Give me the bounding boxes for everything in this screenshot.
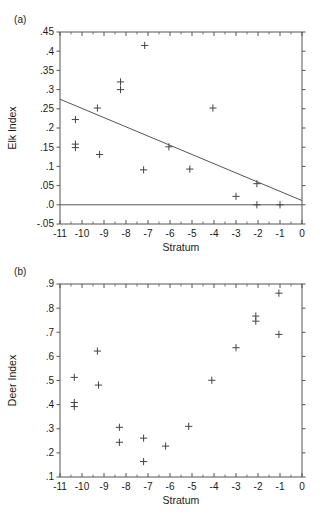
x-tick-label: -7 bbox=[144, 481, 153, 492]
y-tick-label: .3 bbox=[46, 423, 55, 434]
x-tick-label: -1 bbox=[276, 481, 285, 492]
y-axis-title: Elk Index bbox=[6, 106, 18, 150]
data-point-marker bbox=[232, 193, 239, 200]
y-axis-title: Deer Index bbox=[6, 354, 18, 406]
x-tick-label: -6 bbox=[166, 481, 175, 492]
x-tick-label: -9 bbox=[100, 481, 109, 492]
y-tick-label: .3 bbox=[46, 84, 55, 95]
data-point-marker bbox=[94, 347, 101, 354]
data-point-marker bbox=[186, 165, 193, 172]
panel-b-plot: .1.2.3.4.5.6.7.8.9-11-10-9-8-7-6-5-4-3-2… bbox=[0, 262, 325, 523]
data-point-marker bbox=[71, 374, 78, 381]
x-tick-label: -3 bbox=[232, 228, 241, 239]
x-tick-label: -11 bbox=[53, 481, 67, 492]
data-point-marker bbox=[71, 403, 78, 410]
data-point-marker bbox=[117, 78, 124, 85]
data-point-marker bbox=[117, 86, 124, 93]
x-tick-label: 0 bbox=[299, 481, 305, 492]
data-point-marker bbox=[116, 424, 123, 431]
y-tick-label: .6 bbox=[46, 351, 55, 362]
x-tick-label: -5 bbox=[188, 481, 197, 492]
data-point-marker bbox=[253, 201, 260, 208]
data-point-marker bbox=[94, 104, 101, 111]
y-tick-label: .15 bbox=[40, 142, 54, 153]
x-tick-label: -8 bbox=[122, 228, 131, 239]
x-tick-label: -10 bbox=[75, 481, 90, 492]
y-tick-label: .2 bbox=[46, 447, 55, 458]
y-tick-label: .9 bbox=[46, 278, 55, 289]
x-axis-title: Stratum bbox=[163, 241, 200, 253]
x-tick-label: -10 bbox=[75, 228, 90, 239]
x-tick-label: 0 bbox=[299, 228, 305, 239]
y-tick-label: .4 bbox=[46, 46, 55, 57]
y-tick-label: .5 bbox=[46, 375, 55, 386]
panel-b: (b) .1.2.3.4.5.6.7.8.9-11-10-9-8-7-6-5-4… bbox=[0, 262, 325, 523]
data-point-marker bbox=[140, 458, 147, 465]
data-point-marker bbox=[185, 423, 192, 430]
y-tick-label: .7 bbox=[46, 327, 55, 338]
data-point-marker bbox=[275, 331, 282, 338]
data-point-marker bbox=[208, 377, 215, 384]
panel-a: (a) -.05.0.05.1.15.2.25.3.35.4.45-11-10-… bbox=[0, 0, 325, 268]
data-point-marker bbox=[95, 381, 102, 388]
data-point-marker bbox=[141, 42, 148, 49]
data-point-marker bbox=[72, 144, 79, 151]
data-point-marker bbox=[275, 290, 282, 297]
data-point-marker bbox=[140, 435, 147, 442]
x-tick-label: -6 bbox=[166, 228, 175, 239]
x-tick-label: -11 bbox=[53, 228, 67, 239]
x-axis-title: Stratum bbox=[163, 494, 200, 506]
data-point-marker bbox=[162, 443, 169, 450]
x-tick-label: -4 bbox=[210, 228, 219, 239]
x-tick-label: -8 bbox=[122, 481, 131, 492]
y-tick-label: -.05 bbox=[37, 218, 55, 229]
y-tick-label: .05 bbox=[40, 180, 54, 191]
y-tick-label: .1 bbox=[46, 161, 55, 172]
x-tick-label: -5 bbox=[188, 228, 197, 239]
x-tick-label: -7 bbox=[144, 228, 153, 239]
data-point-marker bbox=[140, 166, 147, 173]
y-tick-label: .25 bbox=[40, 103, 54, 114]
y-tick-label: .0 bbox=[46, 199, 55, 210]
data-point-marker bbox=[72, 116, 79, 123]
y-tick-label: .8 bbox=[46, 303, 55, 314]
x-tick-label: -1 bbox=[276, 228, 285, 239]
y-tick-label: .4 bbox=[46, 399, 55, 410]
x-tick-label: -4 bbox=[210, 481, 219, 492]
x-tick-label: -3 bbox=[232, 481, 241, 492]
data-point-marker bbox=[276, 201, 283, 208]
y-tick-label: .45 bbox=[40, 26, 54, 37]
x-tick-label: -2 bbox=[254, 481, 263, 492]
data-point-marker bbox=[209, 104, 216, 111]
data-point-marker bbox=[252, 318, 259, 325]
x-tick-label: -2 bbox=[254, 228, 263, 239]
data-point-marker bbox=[116, 439, 123, 446]
data-point-marker bbox=[96, 151, 103, 158]
regression-line bbox=[60, 99, 302, 200]
x-tick-label: -9 bbox=[100, 228, 109, 239]
panel-a-plot: -.05.0.05.1.15.2.25.3.35.4.45-11-10-9-8-… bbox=[0, 0, 325, 268]
y-tick-label: .35 bbox=[40, 65, 54, 76]
y-tick-label: .2 bbox=[46, 122, 55, 133]
data-point-marker bbox=[232, 344, 239, 351]
figure-container: (a) -.05.0.05.1.15.2.25.3.35.4.45-11-10-… bbox=[0, 0, 325, 523]
